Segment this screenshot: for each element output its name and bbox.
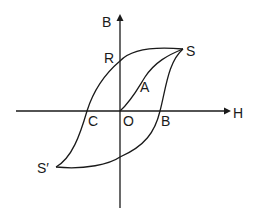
h-axis-label: H xyxy=(233,105,243,121)
b-axis-arrow-icon xyxy=(117,14,124,21)
point-c-label: C xyxy=(88,113,98,129)
initial-magnetization-curve xyxy=(120,49,183,111)
point-r-label: R xyxy=(104,50,114,66)
point-a-label: A xyxy=(140,79,150,95)
point-b-label: B xyxy=(161,113,170,129)
point-o-label: O xyxy=(123,113,134,129)
point-s-prime-label: S′ xyxy=(37,160,49,176)
h-axis-arrow-icon xyxy=(224,108,231,115)
hysteresis-diagram: B H S R A C O B S′ xyxy=(0,0,254,216)
b-axis-label: B xyxy=(102,14,111,30)
point-s-label: S xyxy=(186,43,195,59)
